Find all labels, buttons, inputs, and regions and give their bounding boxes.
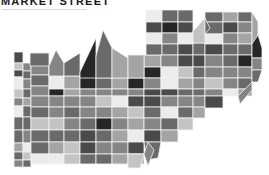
map-region xyxy=(31,86,49,96)
map-region xyxy=(80,118,96,130)
map-region xyxy=(14,89,23,98)
map-region xyxy=(238,44,252,55)
map-region xyxy=(23,130,31,143)
map-region xyxy=(144,130,161,142)
map-region xyxy=(252,58,262,70)
map-region xyxy=(223,44,238,55)
map-region xyxy=(144,107,161,118)
map-region xyxy=(161,130,178,142)
map-region xyxy=(161,89,178,96)
map-region xyxy=(96,142,112,154)
map-region xyxy=(112,96,128,107)
map-region xyxy=(193,67,205,78)
map-region xyxy=(144,67,161,78)
map-region xyxy=(205,96,223,108)
map-region xyxy=(31,118,49,130)
map-region xyxy=(80,154,96,164)
map-region xyxy=(162,22,178,33)
map-region xyxy=(146,44,162,55)
map-region xyxy=(178,44,193,55)
map-region xyxy=(23,79,31,89)
map-region xyxy=(238,55,252,67)
map-region xyxy=(162,10,178,22)
map-region xyxy=(238,12,252,22)
map-region xyxy=(161,96,178,107)
map-region xyxy=(205,89,223,96)
map-region xyxy=(49,154,64,164)
map-region xyxy=(31,154,49,164)
map-region xyxy=(80,89,96,96)
map-region xyxy=(14,130,23,143)
map-region xyxy=(96,30,112,78)
map-region xyxy=(162,44,178,55)
map-region xyxy=(178,67,193,78)
map-region xyxy=(112,78,128,89)
map-region xyxy=(223,12,238,22)
map-region xyxy=(128,96,144,107)
map-region xyxy=(193,107,205,118)
map-region xyxy=(23,98,31,106)
map-region xyxy=(31,75,49,86)
map-region xyxy=(178,107,193,118)
map-region xyxy=(31,130,49,142)
map-region xyxy=(205,12,223,22)
map-region xyxy=(128,78,144,89)
map-region xyxy=(112,107,128,118)
map-region xyxy=(80,107,96,118)
map-region xyxy=(49,142,64,154)
map-region xyxy=(161,118,178,130)
map-region xyxy=(64,96,80,107)
map-region xyxy=(161,55,178,67)
map-region xyxy=(193,18,205,43)
map-region xyxy=(80,96,96,107)
map-region xyxy=(112,154,128,164)
map-region xyxy=(23,160,31,167)
map-region xyxy=(64,76,80,89)
map-region xyxy=(178,22,193,33)
map-region xyxy=(193,43,205,55)
map-region xyxy=(31,107,49,118)
map-region xyxy=(14,106,23,117)
map-region xyxy=(128,118,144,130)
map-region xyxy=(49,89,64,96)
map-region xyxy=(223,78,238,89)
map-region xyxy=(49,50,64,76)
map-region xyxy=(144,118,161,130)
map-region xyxy=(193,96,205,107)
map-region xyxy=(193,78,205,89)
map-region xyxy=(14,98,23,106)
map-region xyxy=(128,142,144,154)
map-region xyxy=(223,55,238,67)
map-region xyxy=(223,22,238,33)
map-region xyxy=(162,33,178,44)
map-region xyxy=(96,78,112,89)
map-region xyxy=(31,96,49,107)
map-region xyxy=(64,130,80,142)
map-region xyxy=(238,67,252,78)
map-region xyxy=(178,78,193,89)
map-region xyxy=(23,117,31,130)
map-region xyxy=(30,53,49,66)
map-region xyxy=(178,55,193,67)
map-region xyxy=(49,118,64,130)
map-region xyxy=(64,154,80,164)
map-region xyxy=(64,89,80,96)
map-region xyxy=(49,76,64,89)
map-region xyxy=(80,38,96,78)
map-region xyxy=(238,22,252,33)
map-region xyxy=(80,142,96,154)
map-region xyxy=(161,67,178,78)
map-region xyxy=(205,55,223,67)
map-region xyxy=(205,67,223,78)
map-region xyxy=(128,154,144,168)
map-region xyxy=(96,89,112,96)
map-region xyxy=(23,89,31,98)
map-region xyxy=(14,77,23,89)
map-region xyxy=(223,67,238,78)
map-region xyxy=(64,142,80,154)
map-region xyxy=(205,34,223,44)
map-region xyxy=(146,33,162,44)
map-region xyxy=(23,71,31,79)
map-region xyxy=(238,33,252,44)
map-region xyxy=(96,118,112,130)
